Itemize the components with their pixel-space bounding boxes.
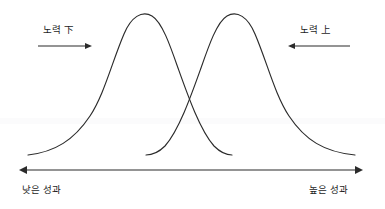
annotation-arrow-effort-high: [288, 43, 350, 49]
axis-label-high-performance: 높은 성과: [309, 184, 349, 195]
axis-label-low-performance: 낮은 성과: [22, 184, 62, 195]
bell-curve-effort-low: [28, 14, 232, 155]
annotation-arrow-effort-low: [38, 43, 92, 49]
annotation-arrow-left-head: [85, 43, 92, 49]
performance-axis: [19, 166, 363, 174]
background-tint-band: [0, 118, 385, 124]
annotation-arrow-right-head: [288, 43, 295, 49]
bell-curve-effort-high: [146, 14, 355, 155]
axis-arrow-head-right: [355, 166, 363, 174]
performance-distribution-diagram: 노력 下 노력 上 낮은 성과 높은 성과: [0, 0, 385, 209]
label-effort-high: 노력 上: [300, 24, 331, 35]
label-effort-low: 노력 下: [43, 24, 74, 35]
axis-arrow-head-left: [19, 166, 27, 174]
